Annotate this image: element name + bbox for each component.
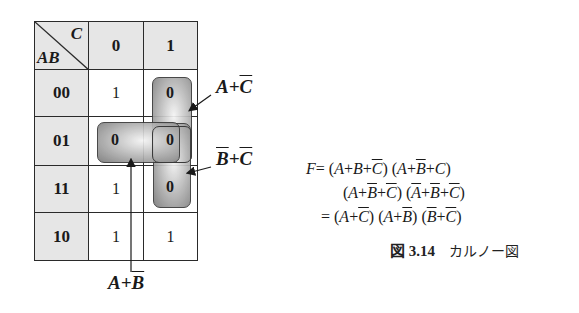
label-b-bar-plus-c-bar: B+C — [216, 148, 252, 170]
figure-title: カルノー図 — [449, 243, 519, 259]
figure-caption: 図 3.14カルノー図 — [390, 239, 519, 260]
equation-line-2: (A+B+C) (A+B+C) — [343, 184, 465, 202]
label-a-plus-c-bar: A+C — [216, 76, 252, 98]
label-a-plus-b-bar: A+B — [108, 272, 144, 294]
equation-line-1: F= (A+B+C) (A+B+C) — [306, 160, 451, 178]
equation-line-3: = (A+C) (A+B) (B+C) — [321, 208, 462, 226]
arrow-lines — [0, 0, 579, 313]
figure-number: 図 3.14 — [390, 243, 435, 259]
